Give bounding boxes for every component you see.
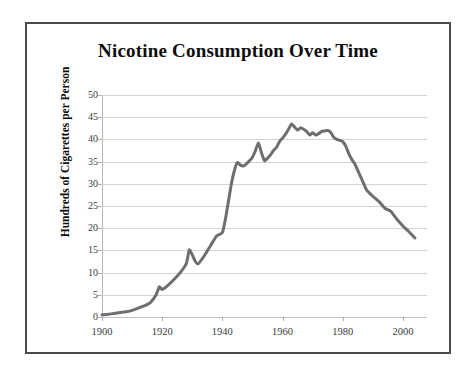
- x-tick-label-1980: 1980: [318, 327, 368, 338]
- y-tick-label-35: 35: [58, 157, 98, 167]
- series-path-cigarettes: [102, 124, 415, 315]
- y-tick-label-25: 25: [58, 201, 98, 211]
- x-tick-label-2000: 2000: [378, 327, 428, 338]
- chart-figure: Nicotine Consumption Over Time Hundreds …: [0, 0, 476, 377]
- gridline-y-0: [102, 317, 427, 318]
- x-tick-label-1940: 1940: [197, 327, 247, 338]
- x-tick-mark-1900: [102, 317, 103, 321]
- line-series: [102, 95, 427, 317]
- x-tick-label-1900: 1900: [77, 327, 127, 338]
- chart-title: Nicotine Consumption Over Time: [27, 40, 449, 62]
- x-tick-mark-1980: [343, 317, 344, 321]
- y-tick-label-45: 45: [58, 112, 98, 122]
- y-tick-label-20: 20: [58, 223, 98, 233]
- x-tick-label-1960: 1960: [258, 327, 308, 338]
- y-tick-label-40: 40: [58, 134, 98, 144]
- x-tick-mark-1920: [162, 317, 163, 321]
- y-tick-label-15: 15: [58, 245, 98, 255]
- x-tick-label-1920: 1920: [137, 327, 187, 338]
- x-tick-mark-1940: [222, 317, 223, 321]
- x-tick-mark-2000: [403, 317, 404, 321]
- y-tick-label-10: 10: [58, 268, 98, 278]
- y-tick-label-50: 50: [58, 90, 98, 100]
- chart-frame: Nicotine Consumption Over Time Hundreds …: [25, 22, 451, 354]
- y-axis-title: Hundreds of Cigarettes per Person: [59, 57, 71, 247]
- x-tick-mark-1960: [283, 317, 284, 321]
- y-tick-label-5: 5: [58, 290, 98, 300]
- y-tick-label-30: 30: [58, 179, 98, 189]
- plot-area: 05101520253035404550 1900192019401960198…: [102, 95, 427, 317]
- y-tick-label-0: 0: [58, 312, 98, 322]
